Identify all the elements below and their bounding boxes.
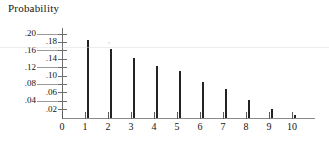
y-axis-tick bbox=[58, 101, 67, 102]
x-axis-label: 7 bbox=[216, 121, 230, 132]
y-axis-label: .04 bbox=[16, 96, 36, 105]
x-axis-tick bbox=[108, 112, 109, 119]
y-axis-tick bbox=[58, 109, 67, 110]
y-axis-tick bbox=[58, 50, 67, 51]
bar bbox=[133, 58, 135, 118]
chart-title: Probability bbox=[8, 2, 59, 14]
y-axis-label: .14 bbox=[37, 54, 57, 63]
y-axis-tick bbox=[58, 59, 67, 60]
y-axis-tick bbox=[58, 84, 67, 85]
bar bbox=[225, 89, 227, 118]
y-axis-label: .12 bbox=[16, 63, 36, 72]
x-axis-tick bbox=[269, 112, 270, 119]
x-axis-tick bbox=[131, 112, 132, 119]
x-axis-label: 2 bbox=[101, 121, 115, 132]
bar bbox=[202, 82, 204, 118]
bar bbox=[271, 109, 273, 118]
y-axis-leader-line bbox=[37, 50, 58, 51]
x-axis-label: 5 bbox=[170, 121, 184, 132]
y-axis-tick bbox=[58, 34, 67, 35]
y-axis-leader-line bbox=[37, 67, 58, 68]
probability-chart: Probability .02.04.06.08.10.12.14.16.18.… bbox=[0, 0, 329, 149]
bar bbox=[248, 100, 250, 118]
y-axis-tick bbox=[58, 67, 67, 68]
y-axis-label: .02 bbox=[37, 105, 57, 114]
x-axis-tick bbox=[62, 112, 63, 119]
y-axis-tick bbox=[58, 76, 67, 77]
x-axis-label: 6 bbox=[193, 121, 207, 132]
y-axis-label: .18 bbox=[37, 37, 57, 46]
y-axis-tick bbox=[58, 92, 67, 93]
y-axis-label: .06 bbox=[37, 88, 57, 97]
x-axis-tick bbox=[246, 112, 247, 119]
y-axis-label: .08 bbox=[16, 79, 36, 88]
bar bbox=[110, 49, 112, 118]
x-axis-tick bbox=[223, 112, 224, 119]
y-axis-leader-line bbox=[37, 34, 58, 35]
bar bbox=[179, 71, 181, 118]
bar bbox=[156, 66, 158, 119]
y-axis-label: .20 bbox=[16, 29, 36, 38]
x-axis-tick bbox=[292, 112, 293, 119]
x-axis-label: 10 bbox=[285, 121, 299, 132]
x-axis-tick bbox=[85, 112, 86, 119]
bar bbox=[87, 40, 89, 118]
x-axis-tick bbox=[200, 112, 201, 119]
x-axis-label: 0 bbox=[55, 121, 69, 132]
bar bbox=[294, 115, 296, 118]
x-axis-label: 8 bbox=[239, 121, 253, 132]
y-axis-leader-line bbox=[37, 101, 58, 102]
y-axis-label: .10 bbox=[37, 71, 57, 80]
x-axis-label: 3 bbox=[124, 121, 138, 132]
x-axis-line bbox=[62, 118, 315, 119]
x-axis-tick bbox=[154, 112, 155, 119]
x-axis-tick bbox=[177, 112, 178, 119]
scan-artifact-line bbox=[0, 47, 329, 48]
x-axis-label: 1 bbox=[78, 121, 92, 132]
scan-artifact-dot bbox=[108, 42, 110, 44]
y-axis-leader-line bbox=[37, 84, 58, 85]
y-axis-tick bbox=[58, 42, 67, 43]
x-axis-label: 9 bbox=[262, 121, 276, 132]
x-axis-label: 4 bbox=[147, 121, 161, 132]
